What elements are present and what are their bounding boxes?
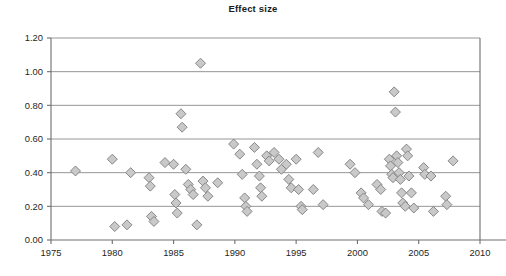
data-point-marker xyxy=(249,142,259,152)
gridlines xyxy=(51,38,480,206)
x-tick-label: 1975 xyxy=(41,247,62,258)
data-point-marker xyxy=(390,107,400,117)
data-point-marker xyxy=(294,185,304,195)
data-point-marker xyxy=(229,139,239,149)
data-point-marker xyxy=(291,154,301,164)
x-tick-label: 2000 xyxy=(347,247,368,258)
data-point-marker xyxy=(169,159,179,169)
axis-ticks xyxy=(47,38,480,244)
data-point-marker xyxy=(235,149,245,159)
data-point-marker xyxy=(345,159,355,169)
data-point-marker xyxy=(213,178,223,188)
data-point-marker xyxy=(172,208,182,218)
data-point-marker xyxy=(308,185,318,195)
data-point-marker xyxy=(192,220,202,230)
x-tick-label: 1995 xyxy=(286,247,307,258)
y-tick-label: 1.00 xyxy=(25,66,43,77)
data-point-marker xyxy=(252,159,262,169)
data-point-marker xyxy=(442,200,452,210)
data-point-marker xyxy=(144,173,154,183)
data-point-marker xyxy=(448,156,458,166)
x-tick-label: 1985 xyxy=(163,247,184,258)
y-tick-label: 0.40 xyxy=(25,167,43,178)
x-tick-label: 1980 xyxy=(102,247,123,258)
y-tick-label: 1.20 xyxy=(25,32,43,43)
data-point-marker xyxy=(397,188,407,198)
data-point-marker xyxy=(126,168,136,178)
data-point-marker xyxy=(145,181,155,191)
data-point-marker xyxy=(441,191,451,201)
data-point-marker xyxy=(107,154,117,164)
data-point-marker xyxy=(318,200,328,210)
y-tick-label: 0.60 xyxy=(25,133,43,144)
y-tick-label: 0.00 xyxy=(25,234,43,245)
effect-size-scatter-chart: Effect size 0.000.200.400.600.801.001.20… xyxy=(0,0,506,276)
data-point-marker xyxy=(237,169,247,179)
data-point-marker xyxy=(409,203,419,213)
y-tick-label: 0.80 xyxy=(25,100,43,111)
data-point-marker xyxy=(240,193,250,203)
data-point-marker xyxy=(71,166,81,176)
y-tick-label: 0.20 xyxy=(25,201,43,212)
data-point-marker xyxy=(284,174,294,184)
data-point-marker xyxy=(110,222,120,232)
x-tick-label: 2010 xyxy=(470,247,491,258)
data-point-marker xyxy=(428,206,438,216)
data-point-marker xyxy=(160,158,170,168)
x-tick-label: 2005 xyxy=(408,247,429,258)
data-point-marker xyxy=(350,168,360,178)
plot-area: 0.000.200.400.600.801.001.20197519801985… xyxy=(0,0,506,276)
data-point-marker xyxy=(256,183,266,193)
data-point-marker xyxy=(122,220,132,230)
data-point-marker xyxy=(257,191,267,201)
data-point-marker xyxy=(176,109,186,119)
x-tick-label: 1990 xyxy=(224,247,245,258)
data-point-marker xyxy=(196,58,206,68)
data-point-marker xyxy=(177,122,187,132)
data-points xyxy=(71,58,459,231)
data-point-marker xyxy=(313,147,323,157)
data-point-marker xyxy=(203,191,213,201)
data-point-marker xyxy=(389,87,399,97)
data-point-marker xyxy=(170,190,180,200)
data-point-marker xyxy=(406,188,416,198)
